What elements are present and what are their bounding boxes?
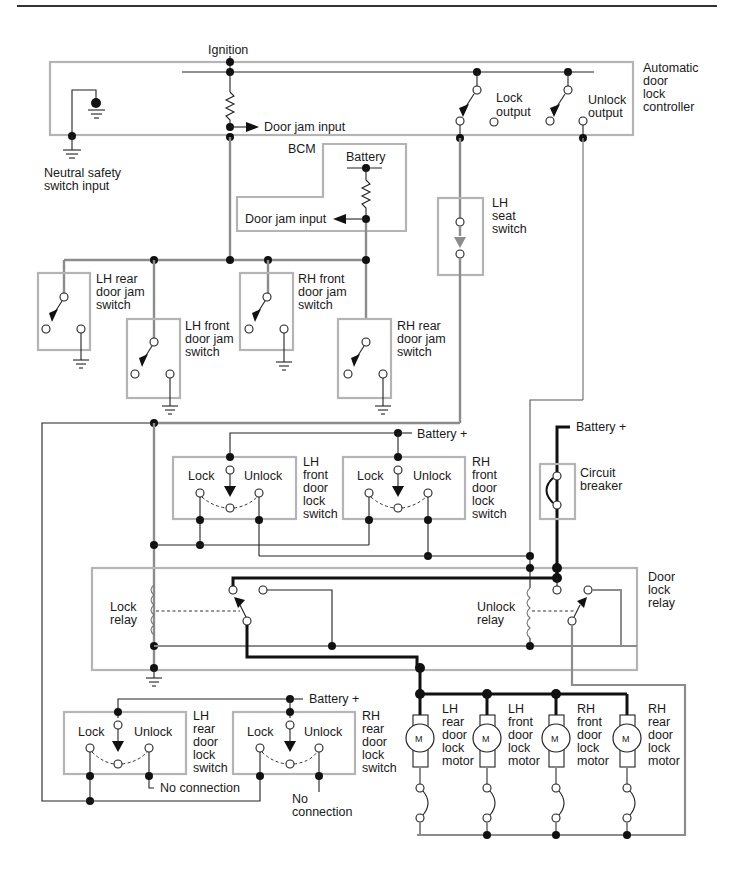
lh-rear-jam-label: LH rear	[96, 272, 138, 286]
rh-front-lock-label: front	[472, 468, 498, 482]
motor-label: front	[508, 715, 534, 729]
switch-arrow-icon	[459, 104, 469, 117]
motor-label: motor	[508, 754, 540, 768]
seat-switch-label: LH	[492, 196, 508, 210]
switch-arrow-icon	[454, 237, 466, 248]
neutral-safety-label: Neutral safety	[44, 166, 122, 180]
lock-label: Lock	[188, 469, 215, 483]
ground-icon	[375, 406, 391, 414]
motor-label: RH	[577, 702, 595, 716]
motor-label: motor	[648, 754, 680, 768]
lh-rear-jam-label: switch	[96, 298, 131, 312]
battery-plus-label: Battery +	[417, 427, 467, 441]
lh-rear-lock-switch-box	[64, 712, 186, 774]
ground-icon	[276, 362, 292, 370]
rh-rear-lock-label: switch	[362, 761, 397, 775]
rh-rear-jam-label: door jam	[397, 332, 446, 346]
seat-switch-label: seat	[492, 209, 516, 223]
motor-label: LH	[508, 702, 524, 716]
motor-label: door	[648, 728, 673, 742]
rh-rear-lock-label: RH	[362, 709, 380, 723]
bcm-battery-label: Battery	[346, 150, 386, 164]
breaker-icon	[547, 478, 554, 503]
switch-arrow-icon	[252, 309, 261, 322]
switch-arrow-icon	[577, 597, 587, 608]
lh-front-lock-label: front	[303, 468, 329, 482]
motor-label: motor	[442, 754, 474, 768]
bcm-label: BCM	[288, 142, 316, 156]
rh-rear-lock-label: door	[362, 735, 387, 749]
switch-arrow-icon	[139, 354, 148, 367]
motor-label: rear	[648, 715, 670, 729]
lh-front-lock-label: LH	[303, 455, 319, 469]
lock-relay-label: Lock	[110, 600, 137, 614]
circuit-breaker-label: breaker	[580, 479, 622, 493]
motor-label: door	[508, 728, 533, 742]
resistor-icon	[226, 92, 234, 127]
door-lock-relay-label: relay	[648, 596, 676, 610]
door-lock-relay-label: lock	[648, 583, 671, 597]
motor-label: RH	[648, 702, 666, 716]
motor-label: door	[577, 728, 602, 742]
no-connection-label: No connection	[160, 781, 240, 795]
rh-rear-jam-label: RH rear	[397, 319, 441, 333]
lh-rear-lock-label: LH	[193, 709, 209, 723]
motor-symbol: M	[551, 734, 559, 744]
lh-rear-jam-label: door jam	[96, 285, 145, 299]
lh-front-lock-label: switch	[303, 507, 338, 521]
unlock-label: Unlock	[134, 725, 173, 739]
rh-front-lock-label: RH	[472, 455, 490, 469]
motor-label: rear	[442, 715, 464, 729]
switch-arrow-icon	[224, 486, 236, 497]
ground-icon	[162, 406, 178, 414]
rh-front-jam-label: door jam	[298, 285, 347, 299]
lh-front-jam-label: switch	[185, 345, 220, 359]
battery-plus-label: Battery +	[309, 692, 359, 706]
door-lock-relay-label: Door	[648, 570, 675, 584]
neutral-safety-label: switch input	[44, 179, 110, 193]
motor-lh-front: M	[473, 694, 501, 835]
battery-plus-label: Battery +	[576, 420, 626, 434]
motor-label: lock	[508, 741, 531, 755]
motor-label: door	[442, 728, 467, 742]
door-lock-relay-box	[92, 568, 637, 670]
motor-symbol: M	[415, 734, 423, 744]
motor-rh-front: M	[542, 694, 570, 835]
rh-front-jam-label: switch	[298, 298, 333, 312]
lock-label: Lock	[357, 469, 384, 483]
ground-icon	[146, 678, 162, 686]
motor-label: lock	[648, 741, 671, 755]
rh-rear-lock-label: rear	[362, 722, 384, 736]
bcm-door-jam-input-label: Door jam input	[245, 212, 327, 226]
controller-label: controller	[643, 100, 694, 114]
rh-front-jam-switch-box	[240, 273, 293, 350]
lh-front-jam-label: LH front	[185, 319, 230, 333]
circuit-breaker-label: Circuit	[580, 466, 616, 480]
rh-front-lock-label: lock	[472, 494, 495, 508]
lh-front-jam-label: door jam	[185, 332, 234, 346]
switch-arrow-icon	[351, 354, 360, 367]
switch-arrow-icon	[234, 597, 245, 608]
motor-lh-rear: M	[406, 694, 434, 835]
unlock-output-label: output	[588, 106, 623, 120]
lock-label: Lock	[78, 725, 105, 739]
unlock-label: Unlock	[304, 725, 343, 739]
unlock-label: Unlock	[413, 469, 452, 483]
controller-label: Automatic	[643, 61, 699, 75]
motor-label: lock	[442, 741, 465, 755]
wiring-diagram: Ignition Door jam input Lock output Unlo…	[0, 0, 737, 883]
lh-rear-lock-label: lock	[193, 748, 216, 762]
unlock-label: Unlock	[244, 469, 283, 483]
motor-label: lock	[577, 741, 600, 755]
motor-symbol: M	[622, 734, 630, 744]
unlock-relay-label: relay	[477, 613, 505, 627]
motor-label: front	[577, 715, 603, 729]
switch-arrow-icon	[49, 309, 58, 322]
rh-rear-lock-label: lock	[362, 748, 385, 762]
rh-front-jam-label: RH front	[298, 272, 345, 286]
lh-rear-lock-label: rear	[193, 722, 215, 736]
motor-label: LH	[442, 702, 458, 716]
no-connection-label: connection	[292, 805, 353, 819]
ignition-label: Ignition	[208, 43, 248, 57]
door-jam-input-label: Door jam input	[264, 120, 346, 134]
